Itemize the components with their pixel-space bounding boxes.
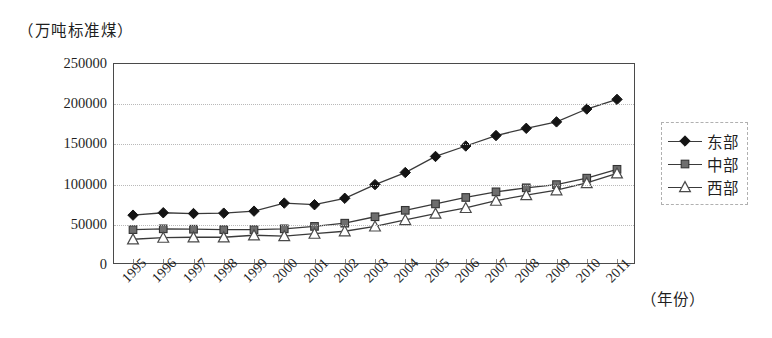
x-tick-label: 1995 bbox=[119, 255, 150, 286]
x-tick-label: 2008 bbox=[512, 255, 543, 286]
x-tick-label: 2006 bbox=[452, 255, 483, 286]
legend-label: 中部 bbox=[707, 153, 739, 175]
x-tick-label: 2009 bbox=[543, 255, 574, 286]
x-tick-label: 2011 bbox=[603, 256, 634, 287]
legend-item-2[interactable]: 中部 bbox=[668, 152, 739, 175]
x-tick-label: 2001 bbox=[301, 255, 332, 286]
x-tick-label: 2010 bbox=[573, 255, 604, 286]
x-tick-label: 2003 bbox=[361, 255, 392, 286]
x-axis-title: （年份） bbox=[641, 287, 705, 309]
legend-item-1[interactable]: 东部 bbox=[668, 129, 739, 152]
x-tick-label: 2002 bbox=[331, 255, 362, 286]
filled-diamond-icon bbox=[668, 134, 702, 148]
x-tick-label: 1999 bbox=[240, 255, 271, 286]
x-tick-label: 2005 bbox=[422, 255, 453, 286]
open-triangle-icon bbox=[668, 180, 702, 194]
x-tick-label: 1997 bbox=[180, 255, 211, 286]
legend-item-3[interactable]: 西部 bbox=[668, 175, 739, 198]
x-tick-label: 2004 bbox=[391, 255, 422, 286]
legend-label: 东部 bbox=[707, 130, 739, 152]
x-tick-label: 2000 bbox=[270, 255, 301, 286]
filled-square-icon bbox=[668, 157, 702, 171]
legend-label: 西部 bbox=[707, 176, 739, 198]
x-tick-label: 1998 bbox=[210, 255, 241, 286]
x-tick-label: 1996 bbox=[149, 255, 180, 286]
x-tick-label: 2007 bbox=[482, 255, 513, 286]
legend: 东部中部西部 bbox=[661, 122, 748, 205]
line-chart-figure: （万吨标准煤） 050000100000150000200000250000 1… bbox=[0, 0, 772, 338]
